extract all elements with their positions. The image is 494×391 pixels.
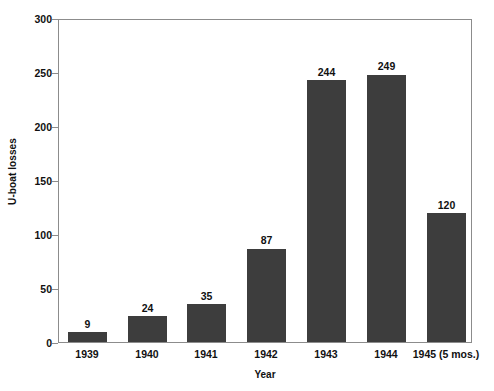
y-tick-mark: [52, 343, 58, 344]
bar-value-1944: 249: [359, 61, 414, 72]
bar-1939[interactable]: [68, 332, 107, 342]
bar-1943[interactable]: [307, 80, 346, 342]
y-axis-title-text: U-boat losses: [7, 138, 18, 205]
y-tick-label: 100: [24, 230, 52, 241]
plot-area: 9 24 35 87 244 249: [58, 19, 472, 343]
bar-1944[interactable]: [367, 75, 406, 342]
x-axis-title: Year: [58, 369, 472, 380]
bar-1942[interactable]: [247, 249, 286, 342]
y-tick-label: 250: [24, 68, 52, 79]
bar-value-1943: 244: [299, 67, 354, 78]
y-tick-label: 0: [24, 338, 52, 349]
bars-layer: 9 24 35 87 244 249: [59, 20, 471, 342]
y-axis-ticks: 300 250 200 150 100 50 0: [24, 0, 52, 391]
y-tick-label: 200: [24, 122, 52, 133]
bar-1945[interactable]: [427, 213, 466, 342]
bar-value-1941: 35: [179, 291, 234, 302]
bar-value-1942: 87: [239, 235, 294, 246]
y-tick-label: 50: [24, 284, 52, 295]
bar-value-1940: 24: [120, 303, 175, 314]
bar-value-1945: 120: [419, 200, 474, 211]
y-axis-title: U-boat losses: [0, 0, 24, 343]
bar-chart: U-boat losses 300 250 200 150 100 50 0 9…: [0, 0, 494, 391]
y-tick-label: 150: [24, 176, 52, 187]
y-tick-label: 300: [24, 14, 52, 25]
bar-value-1939: 9: [60, 319, 115, 330]
bar-1941[interactable]: [187, 304, 226, 342]
x-tick-label-1945: 1945 (5 mos.): [398, 349, 494, 361]
bar-1940[interactable]: [128, 316, 167, 342]
x-axis-ticks: 1939 1940 1941 1942 1943 1944 1945 (5 mo…: [58, 349, 472, 365]
